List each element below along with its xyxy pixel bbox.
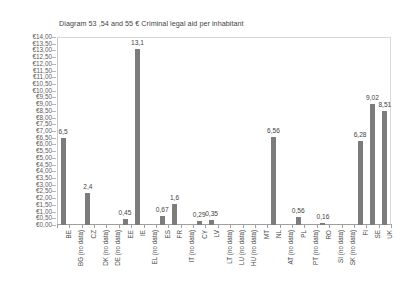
y-axis-tick-mark [52, 165, 56, 166]
y-axis-tick-mark [52, 218, 56, 219]
y-axis-tick-mark [52, 151, 56, 152]
x-axis-tick-mark [119, 224, 120, 228]
y-axis-tick-label: €0,00 [36, 222, 52, 228]
x-axis-tick-mark [292, 224, 293, 228]
bar [358, 141, 363, 225]
bar [85, 193, 90, 225]
chart-title: Diagram 53 ,54 and 55 € Criminal legal a… [59, 19, 244, 28]
x-axis-tick-mark [57, 224, 58, 228]
y-axis-tick-mark [52, 64, 56, 65]
x-axis-tick-mark [205, 224, 206, 228]
x-axis-tick-mark [82, 224, 83, 228]
x-axis-tick-label: CZ [91, 230, 97, 238]
bar [61, 138, 66, 225]
x-axis-tick-label: EL (no data) [152, 230, 158, 264]
x-axis-tick-mark [193, 224, 194, 228]
bar [172, 204, 177, 225]
y-axis-tick-mark [52, 57, 56, 58]
x-axis-tick-mark [329, 224, 330, 228]
x-axis-tick-label: HU (no data) [251, 230, 257, 266]
x-axis-tick-label: BE [66, 230, 72, 238]
x-axis-tick-label: RO [326, 230, 332, 239]
y-axis-tick-mark [52, 198, 56, 199]
bar-value-label: 1,6 [160, 195, 190, 202]
x-axis-tick-mark [106, 224, 107, 228]
x-axis-tick-mark [218, 224, 219, 228]
x-axis-tick-label: LV [214, 230, 220, 237]
y-axis-tick-mark [52, 178, 56, 179]
x-axis-tick-label: IT (no data) [189, 230, 195, 262]
x-axis-tick-mark [366, 224, 367, 228]
bar-value-label: 0,35 [197, 211, 227, 218]
y-axis-tick-mark [52, 212, 56, 213]
bar-value-label: 6,56 [258, 128, 288, 135]
x-axis-tick-label: PL [301, 230, 307, 238]
y-axis-tick-mark [52, 138, 56, 139]
y-axis-tick-mark [52, 191, 56, 192]
y-axis-tick-mark [52, 171, 56, 172]
x-axis-tick-mark [181, 224, 182, 228]
y-axis-tick-mark [52, 91, 56, 92]
bar [370, 104, 375, 225]
x-axis-tick-label: DK (no data) [103, 230, 109, 266]
x-axis-tick-label: SI (no data) [338, 230, 344, 263]
bar-value-label: 0,16 [308, 214, 338, 221]
x-axis-tick-label: EE [128, 230, 134, 238]
x-axis-tick-mark [304, 224, 305, 228]
y-axis-tick-mark [52, 185, 56, 186]
bar-value-label: 2,4 [73, 184, 103, 191]
x-axis-tick-mark [255, 224, 256, 228]
y-axis-tick-mark [52, 158, 56, 159]
x-axis-tick-label: ES [165, 230, 171, 238]
x-axis-tick-mark [379, 224, 380, 228]
y-axis-tick-mark [52, 50, 56, 51]
bar-chart: Diagram 53 ,54 and 55 € Criminal legal a… [0, 0, 408, 302]
x-axis-tick-label: SK (no data) [350, 230, 356, 265]
y-axis-tick-mark [52, 71, 56, 72]
bar [135, 49, 140, 225]
x-axis-tick-mark [156, 224, 157, 228]
bar [382, 111, 387, 225]
y-axis-tick-mark [52, 144, 56, 145]
x-axis-tick-label: CY [202, 230, 208, 239]
x-axis-tick-mark [230, 224, 231, 228]
x-axis-tick-mark [267, 224, 268, 228]
x-axis-ticks [57, 224, 391, 228]
x-axis-tick-label: LT (no data) [227, 230, 233, 264]
x-axis-tick-mark [317, 224, 318, 228]
y-axis-tick-mark [52, 84, 56, 85]
y-axis-tick-mark [52, 97, 56, 98]
y-axis-tick-mark [52, 104, 56, 105]
x-axis-tick-label: AT (no data) [288, 230, 294, 264]
x-axis-tick-mark [391, 224, 392, 228]
x-axis-tick-label: MT [264, 230, 270, 239]
y-axis-tick-mark [52, 205, 56, 206]
x-axis-tick-label: LU (no data) [239, 230, 245, 265]
y-axis-tick-mark [52, 124, 56, 125]
bar [271, 137, 276, 225]
y-axis-tick-mark [52, 77, 56, 78]
x-axis-tick-mark [94, 224, 95, 228]
x-axis-tick-label: UK [387, 230, 393, 239]
x-axis-tick-mark [243, 224, 244, 228]
bar-value-label: 6,5 [48, 129, 78, 136]
y-axis-tick-mark [52, 44, 56, 45]
x-axis-tick-mark [69, 224, 70, 228]
x-axis-tick-mark [280, 224, 281, 228]
y-axis: €14,00€13,50€13,00€12,50€12,00€11,50€11,… [0, 37, 55, 225]
bars-layer: 6,52,40,4513,10,671,60,290,356,560,560,1… [57, 37, 391, 225]
x-axis-tick-mark [354, 224, 355, 228]
x-axis-tick-label: FR [177, 230, 183, 238]
x-axis-tick-mark [168, 224, 169, 228]
x-axis-tick-label: IE [140, 230, 146, 236]
x-axis-tick-label: DE (no data) [115, 230, 121, 266]
x-axis-tick-label: FI [363, 230, 369, 236]
x-axis-tick-mark [144, 224, 145, 228]
y-axis-tick-mark [52, 118, 56, 119]
x-axis-tick-label: PT (no data) [313, 230, 319, 265]
y-axis-tick-mark [52, 37, 56, 38]
bar-value-label: 13,1 [122, 40, 152, 47]
x-axis-tick-label: NL [276, 230, 282, 238]
bar-value-label: 8,51 [370, 102, 400, 109]
x-axis-tick-mark [342, 224, 343, 228]
